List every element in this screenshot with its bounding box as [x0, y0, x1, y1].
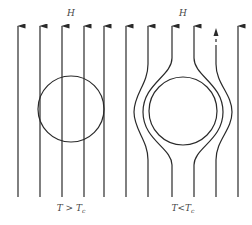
field-label-left: H [67, 8, 75, 18]
sample-sphere-superconducting [149, 77, 217, 145]
sample-sphere-normal [38, 76, 104, 142]
comparison-operator: < [178, 203, 186, 213]
critical-subscript: c [191, 207, 194, 214]
field-lines-diagram [0, 0, 252, 225]
comparison-operator: > [63, 203, 76, 213]
condition-label-right: T<Tc [172, 203, 195, 214]
condition-label-left: T > Tc [57, 203, 86, 214]
meissner-effect-figure: H H T > Tc T<Tc [0, 0, 252, 225]
critical-subscript: c [82, 207, 85, 214]
field-label-right: H [179, 8, 187, 18]
left-panel-field-lines [18, 26, 126, 197]
